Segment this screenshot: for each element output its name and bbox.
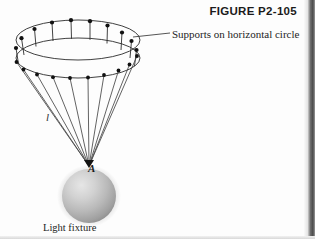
figure-caption: Light fixture <box>43 222 96 233</box>
page-edge-bottom <box>0 236 315 239</box>
figure-title: FIGURE P2-105 <box>209 5 297 17</box>
supports-callout-label: Supports on horizontal circle <box>172 28 299 40</box>
attachment-dots-lower <box>15 54 139 80</box>
apex-point-label: A <box>88 162 95 174</box>
figure-page: FIGURE P2-105 Supports on horizontal cir… <box>0 0 315 239</box>
cable-length-label: l <box>46 111 49 123</box>
support-dots-upper <box>14 18 139 52</box>
light-fixture-sphere <box>62 169 116 223</box>
page-edge-shadow <box>308 0 315 239</box>
